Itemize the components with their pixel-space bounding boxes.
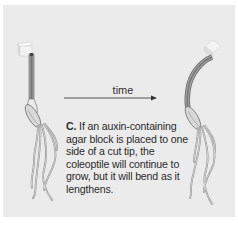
caption-text: If an auxin-containing agar block is pla… [66,120,188,195]
caption-label: C. [66,120,76,132]
roots-before-inner [31,124,57,200]
time-arrow [64,96,157,101]
roots-after-inner [190,126,215,204]
time-label: time [103,84,143,96]
figure-caption: C. If an auxin-containing agar block is … [66,120,191,196]
agar-block-after [204,40,221,58]
seedling-before [18,42,57,200]
coleoptile-stem-after [187,57,212,108]
coleoptile-stem-before [29,53,34,99]
